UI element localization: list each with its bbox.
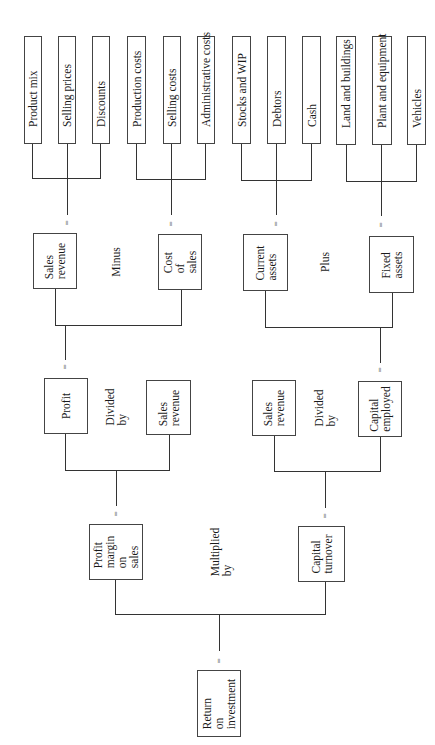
connector [169,435,170,470]
node-sales-revenue-l2-right: Sales revenue [252,380,296,436]
leaf-land-and-buildings: Land and buildings [336,36,356,145]
node-sales-revenue-l3: Sales revenue [33,233,77,289]
connector [205,144,206,179]
connector [219,614,220,651]
connector [274,436,275,471]
equals-sign: = [377,222,386,227]
equals-sign: = [63,220,72,225]
node-profit: Profit [44,378,88,434]
leaf-selling-costs: Selling costs [163,36,181,144]
equals-sign: = [215,658,224,663]
connector [136,179,206,180]
equals-sign: = [321,513,330,518]
equals-sign: = [112,511,121,516]
connector [32,144,33,179]
node-profit-margin-on-sales: Profit margin on sales [89,524,143,580]
connector [115,580,116,614]
connector [392,293,393,328]
node-sales-revenue-l2-left: Sales revenue [146,380,191,435]
connector [65,434,66,470]
leaf-cash: Cash [302,36,321,144]
connector [311,144,312,181]
connector [65,325,66,360]
operator-divided-by: Divided by [313,389,337,426]
node-current-assets: Current assets [243,234,288,291]
equals-sign: = [61,364,70,369]
connector [265,327,393,328]
connector [55,325,182,326]
connector [274,471,381,472]
connector [380,437,381,471]
leaf-selling-prices: Selling prices [58,36,76,144]
leaf-discounts: Discounts [92,36,110,144]
operator-plus: Plus [319,252,331,272]
connector [65,470,170,471]
leaf-administrative-costs: Administrative costs [197,36,215,144]
node-return-on-investment: Return on investment [197,670,241,737]
operator-multiplied-by: Multiplied by [209,528,233,577]
node-capital-turnover: Capital turnover [298,526,345,582]
connector [265,291,266,328]
leaf-product-mix: Product mix [24,36,42,144]
connector [115,614,326,615]
leaf-plant-and-equipment: Plant and equipment [372,36,392,145]
operator-divided-by: Divided by [104,388,128,425]
node-fixed-assets: Fixed assets [369,236,414,293]
equals-sign: = [376,367,385,372]
connector [32,178,101,179]
equals-sign: = [167,221,176,226]
connector [325,471,326,508]
connector [416,145,417,182]
connector [136,144,137,179]
connector [67,144,68,215]
connector [380,327,381,363]
connector [346,145,347,182]
node-capital-employed: Capital employed [358,381,402,437]
connector [55,289,56,325]
leaf-debtors: Debtors [267,36,286,144]
leaf-vehicles: Vehicles [407,36,426,145]
connector [241,180,312,181]
node-cost-of-sales: Cost of sales [158,234,202,290]
connector [181,290,182,325]
connector [116,470,117,506]
leaf-stocks-and-wip: Stocks and WIP [232,36,251,144]
connector [346,181,417,182]
connector [241,144,242,181]
operator-minus: Minus [110,247,122,276]
equals-sign: = [272,221,281,226]
leaf-production-costs: Production costs [127,36,146,144]
connector [325,582,326,615]
connector [100,144,101,179]
